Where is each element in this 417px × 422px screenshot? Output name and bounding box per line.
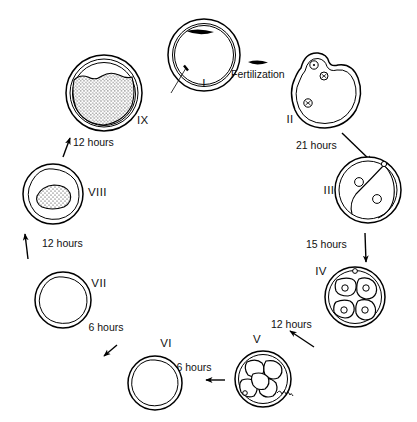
fertilization-label: Fertilization (231, 68, 285, 80)
stage-label-VIII: VIII (88, 186, 107, 198)
stage-IX-group: IX (66, 55, 149, 131)
stage-III-group: III (324, 157, 401, 223)
stage-IV-nucleus-2 (363, 285, 369, 291)
stage-IV-polar-body (353, 269, 358, 274)
stage-I-group: I (168, 19, 240, 93)
interval-label-IV-V: 12 hours (271, 318, 312, 330)
stage-VI-group: VI (128, 337, 182, 410)
stage-VII-group: VII (35, 272, 107, 328)
stage-IV-group: IV (315, 265, 385, 327)
interval-label-VII-VIII: 12 hours (42, 237, 83, 249)
stage-label-I: I (202, 77, 206, 89)
stage-III-nucleus-right (373, 195, 382, 204)
stage-VIII-group: VIII (23, 164, 107, 224)
stage-II-pronucleus-upper-dot (313, 64, 315, 66)
arrow-IV-V-line[interactable] (290, 331, 314, 347)
stage-V-group: V (235, 333, 293, 407)
development-cycle-diagram: I Fertilization II 21 hours III 15 hours (0, 0, 417, 422)
interval-label-VIII-IX: 12 hours (73, 136, 114, 148)
interval-label-VI-VII: 6 hours (88, 321, 123, 333)
stage-IV-zona-pellucida (325, 267, 385, 327)
arrow-III-IV-line[interactable] (365, 233, 366, 262)
stage-V-blastomere-5-central (252, 373, 270, 390)
arrow-IV-to-V: 12 hours (271, 318, 314, 347)
arrow-VIII-IX-line[interactable] (63, 138, 70, 157)
stage-IV-nucleus-1 (342, 285, 348, 291)
stage-label-VI: VI (160, 337, 172, 349)
stage-label-II: II (286, 113, 293, 125)
arrow-VII-VIII-line[interactable] (25, 234, 28, 259)
arrow-III-to-IV: 15 hours (306, 233, 366, 262)
stage-IV-nucleus-4 (362, 307, 368, 313)
stage-V-nucleus-detail (243, 391, 248, 396)
stage-label-IV: IV (315, 265, 327, 277)
stage-label-VII: VII (91, 277, 106, 289)
stage-VII-zona-pellucida (35, 272, 91, 328)
arrow-VIII-to-IX: 12 hours (63, 136, 114, 157)
interval-label-II-III: 21 hours (296, 139, 337, 151)
interval-label-III-IV: 15 hours (306, 238, 347, 250)
stage-label-III: III (324, 184, 335, 196)
arrow-VII-to-VIII: 12 hours (25, 234, 83, 259)
stage-IV-nucleus-3 (341, 307, 347, 313)
stage-III-zona-pellucida (335, 157, 401, 223)
stage-III-polar-body (381, 161, 386, 166)
arrow-VI-to-VII: 6 hours (88, 321, 123, 356)
stage-II-group: II (286, 53, 360, 128)
cycle-svg-canvas: I Fertilization II 21 hours III 15 hours (0, 0, 417, 422)
arrow-VI-VII-line[interactable] (104, 345, 117, 356)
interval-label-V-VI: 6 hours (176, 361, 211, 373)
stage-label-IX: IX (137, 114, 149, 126)
stage-label-V: V (253, 333, 261, 345)
stage-VI-zona-pellucida (128, 356, 182, 410)
fertilization-arrow-icon (248, 61, 268, 65)
stage-III-nucleus-left (355, 178, 364, 187)
arrow-V-to-VI: 6 hours (176, 361, 225, 380)
